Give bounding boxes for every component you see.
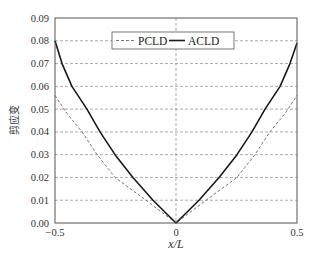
x-tick-label: −0.5 [45, 227, 64, 238]
y-tick-label: 0.02 [31, 172, 49, 183]
x-axis-label: x/L [167, 237, 184, 251]
y-axis-label: 剪应变 [8, 105, 20, 135]
y-tick-label: 0.07 [31, 58, 49, 69]
x-tick-label: 0.5 [290, 227, 303, 238]
y-tick-label: 0.05 [31, 104, 49, 115]
legend: PCLD ACLD [112, 32, 234, 49]
y-tick-label: 0.01 [31, 195, 49, 206]
legend-acld-label: ACLD [188, 35, 219, 47]
shear-strain-chart: 0.000.010.020.030.040.050.060.070.080.09… [0, 0, 318, 262]
y-tick-label: 0.06 [31, 81, 49, 92]
y-tick-label: 0.09 [31, 13, 49, 24]
y-tick-label: 0.04 [31, 126, 50, 137]
y-tick-label: 0.08 [31, 35, 49, 46]
y-tick-label: 0.03 [31, 149, 49, 160]
legend-pcld-label: PCLD [138, 35, 167, 47]
y-axis-ticks: 0.000.010.020.030.040.050.060.070.080.09 [31, 13, 50, 229]
